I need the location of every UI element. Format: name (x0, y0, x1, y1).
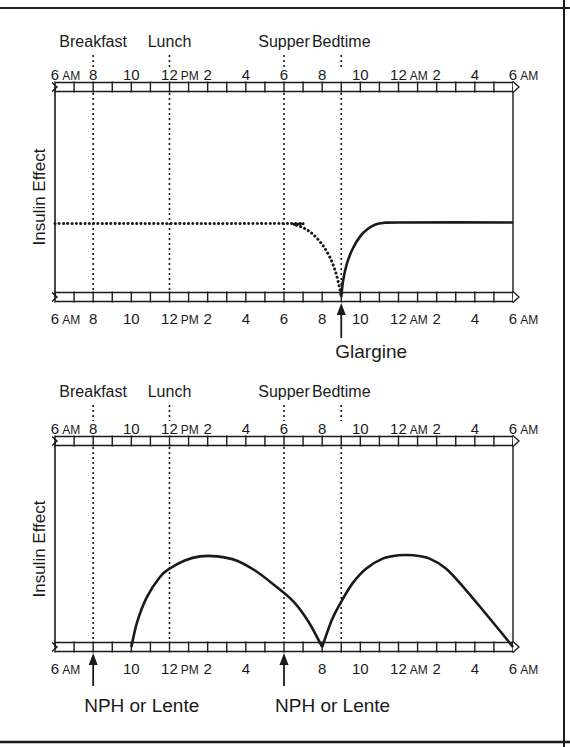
top-axis-tick-label: 4 (242, 66, 250, 83)
curve-glargine (341, 222, 513, 297)
bottom-axis-tick-label: 6AM (509, 660, 538, 677)
injection-label: NPH or Lente (84, 695, 199, 716)
top-axis-tick-label: 10 (352, 420, 369, 437)
meal-label-lunch: Lunch (148, 383, 192, 400)
top-axis-tick-label: 2 (203, 66, 211, 83)
bottom-axis-tick-label: 12PM (161, 660, 199, 677)
y-axis-label: Insulin Effect (30, 148, 49, 245)
bottom-axis-tick-label: 12AM (390, 660, 428, 677)
injection-arrow-icon (337, 303, 346, 315)
meal-label-supper: Supper (258, 33, 310, 50)
meal-label-breakfast: Breakfast (59, 383, 127, 400)
bottom-axis-tick-label: 10 (352, 660, 369, 677)
top-axis-tick-label: 6 (280, 420, 288, 437)
bottom-axis-tick-label: 8 (318, 660, 326, 677)
bottom-axis-tick-label: 2 (203, 310, 211, 327)
bottom-axis-tick-label: 4 (242, 660, 250, 677)
top-axis-tick-label: 4 (471, 66, 479, 83)
top-axis-tick-label: 12AM (390, 66, 428, 83)
bottom-axis-tick-label: 8 (318, 310, 326, 327)
meal-label-breakfast: Breakfast (59, 33, 127, 50)
top-axis-tick-label: 6AM (509, 66, 538, 83)
top-axis-tick-label: 6AM (51, 66, 80, 83)
injection-arrow-icon (280, 653, 289, 665)
top-axis-tick-label: 10 (123, 66, 140, 83)
meal-label-bedtime: Bedtime (312, 383, 371, 400)
top-time-axis-end-arrow (513, 82, 519, 93)
bottom-axis-tick-label: 6 (280, 310, 288, 327)
top-axis-tick-label: 8 (89, 66, 97, 83)
top-axis-tick-label: 4 (242, 420, 250, 437)
top-axis-tick-label: 6AM (51, 420, 80, 437)
bottom-time-axis-end-arrow (513, 292, 519, 303)
top-time-axis-end-arrow (513, 436, 519, 447)
meal-label-supper: Supper (258, 383, 310, 400)
top-axis-tick-label: 12PM (161, 66, 199, 83)
bottom-axis-tick-label: 2 (432, 310, 440, 327)
top-axis-tick-label: 8 (318, 66, 326, 83)
bottom-axis-tick-label: 6AM (51, 310, 80, 327)
bottom-time-axis-end-arrow (513, 642, 519, 653)
top-axis-tick-label: 2 (432, 420, 440, 437)
top-axis-tick-label: 2 (432, 66, 440, 83)
top-axis-tick-label: 12PM (161, 420, 199, 437)
bottom-axis-tick-label: 12PM (161, 310, 199, 327)
bottom-axis-tick-label: 6AM (509, 310, 538, 327)
insulin-diagram: BreakfastLunchSupperBedtime6AM81012PM246… (0, 0, 570, 747)
bottom-axis-tick-label: 4 (471, 660, 479, 677)
injection-arrow-icon (89, 653, 98, 665)
bottom-axis-tick-label: 8 (89, 310, 97, 327)
bottom-axis-tick-label: 2 (432, 660, 440, 677)
glargine-panel: BreakfastLunchSupperBedtime6AM81012PM246… (30, 33, 538, 362)
bottom-axis-tick-label: 4 (242, 310, 250, 327)
meal-label-bedtime: Bedtime (312, 33, 371, 50)
bottom-axis-tick-label: 2 (203, 660, 211, 677)
bottom-axis-tick-label: 10 (352, 310, 369, 327)
top-axis-tick-label: 8 (318, 420, 326, 437)
nph-lente-panel: BreakfastLunchSupperBedtime6AM81012PM246… (30, 383, 538, 716)
top-axis-tick-label: 4 (471, 420, 479, 437)
y-axis-label: Insulin Effect (30, 500, 49, 597)
top-axis-tick-label: 12AM (390, 420, 428, 437)
curve-morning-nph (131, 556, 322, 647)
top-axis-tick-label: 10 (123, 420, 140, 437)
bottom-axis-tick-label: 10 (123, 660, 140, 677)
meal-label-lunch: Lunch (148, 33, 192, 50)
bottom-axis-tick-label: 12AM (390, 310, 428, 327)
top-axis-tick-label: 8 (89, 420, 97, 437)
top-axis-tick-label: 10 (352, 66, 369, 83)
curve-previous-glargine (55, 223, 341, 297)
bottom-axis-tick-label: 6AM (51, 660, 80, 677)
curve-evening-nph (322, 555, 513, 647)
injection-label: NPH or Lente (275, 695, 390, 716)
top-axis-tick-label: 6AM (509, 420, 538, 437)
top-axis-tick-label: 6 (280, 66, 288, 83)
injection-label: Glargine (335, 341, 407, 362)
bottom-axis-tick-label: 10 (123, 310, 140, 327)
top-axis-tick-label: 2 (203, 420, 211, 437)
bottom-axis-tick-label: 4 (471, 310, 479, 327)
